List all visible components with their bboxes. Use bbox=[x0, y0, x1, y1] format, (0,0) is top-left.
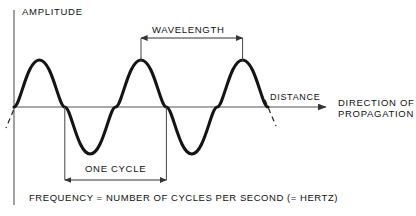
wave-diagram-figure: AMPLITUDE WAVELENGTH DISTANCE DIRECTION … bbox=[0, 0, 416, 216]
annotation-label-wavelength: WAVELENGTH bbox=[152, 24, 224, 35]
direction-line-2: PROPAGATION bbox=[338, 108, 414, 119]
axis-label-distance: DISTANCE bbox=[270, 92, 320, 103]
caption-frequency-definition: FREQUENCY = NUMBER OF CYCLES PER SECOND … bbox=[29, 192, 338, 203]
axis-label-amplitude: AMPLITUDE bbox=[22, 6, 83, 17]
annotation-label-direction-of-propagation: DIRECTION OFPROPAGATION bbox=[338, 97, 414, 119]
direction-line-1: DIRECTION OF bbox=[338, 97, 414, 108]
annotation-label-one-cycle: ONE CYCLE bbox=[85, 163, 146, 174]
